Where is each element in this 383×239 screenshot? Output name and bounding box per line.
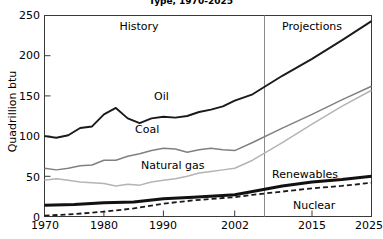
x-tick-1970: 1970 xyxy=(31,219,59,232)
series-label-coal: Coal xyxy=(135,123,159,136)
x-tick-marks xyxy=(104,211,312,217)
x-tick-1980: 1980 xyxy=(90,219,118,232)
series-label-oil: Oil xyxy=(154,90,169,103)
series-line-oil xyxy=(45,21,372,138)
x-tick-2025: 2025 xyxy=(355,219,383,232)
x-tick-2015: 2015 xyxy=(298,219,326,232)
series-label-nuclear: Nuclear xyxy=(293,199,335,212)
series-line-coal xyxy=(45,86,372,170)
series-label-renewables: Renewables xyxy=(272,168,338,181)
series-layer xyxy=(45,21,372,216)
annotation-history: History xyxy=(119,20,158,33)
series-label-natural-gas: Natural gas xyxy=(141,159,205,172)
plot-frame xyxy=(45,16,372,217)
x-tick-2002: 2002 xyxy=(221,219,249,232)
x-tick-1990: 1990 xyxy=(149,219,177,232)
annotation-projections: Projections xyxy=(282,20,342,33)
y-tick-marks xyxy=(45,56,51,177)
